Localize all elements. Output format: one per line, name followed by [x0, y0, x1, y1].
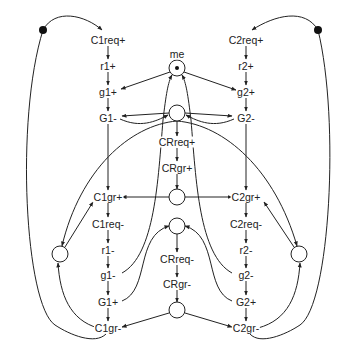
transition-crgr-minus: CRgr- [162, 279, 192, 290]
transition-crgr-plus: CRgr+ [161, 163, 194, 174]
place-mutex-release [169, 105, 185, 121]
transition-r2-plus: r2+ [237, 61, 254, 72]
transition-crreq-minus: CRreq- [159, 254, 195, 265]
token-me [175, 66, 179, 70]
transition-g1-minus: g1- [99, 270, 116, 281]
transition-r1-minus: r1- [101, 245, 116, 256]
transition-r2-minus: r2- [239, 245, 254, 256]
transition-G2-plus: G2+ [235, 297, 257, 308]
transition-G1-minus: G1- [98, 113, 118, 124]
transition-c2req-plus: C2req+ [228, 35, 265, 46]
place-left [52, 246, 68, 262]
token-top-right [314, 26, 322, 34]
transition-c2gr-plus: C2gr+ [231, 192, 262, 203]
place-cr-release [169, 218, 185, 234]
place-cr-grant [169, 189, 185, 205]
transition-c1gr-minus: C1gr- [94, 323, 122, 334]
transition-r1-plus: r1+ [99, 61, 116, 72]
transition-g1-plus: g1+ [98, 87, 118, 98]
transition-c1req-plus: C1req+ [90, 35, 127, 46]
token-top-left [39, 26, 47, 34]
transition-c2req-minus: C2req- [229, 219, 263, 230]
transition-crreq-plus: CRreq+ [158, 137, 196, 148]
transition-G2-minus: G2- [236, 113, 256, 124]
place-me-label: me [169, 49, 186, 60]
place-cr-done [169, 302, 185, 318]
transition-g2-minus: g2- [237, 270, 254, 281]
transition-c2gr-minus: C2gr- [232, 323, 260, 334]
place-right [291, 246, 307, 262]
transition-g2-plus: g2+ [236, 87, 256, 98]
transition-c1gr-plus: C1gr+ [93, 192, 124, 203]
transition-c1req-minus: C1req- [91, 219, 125, 230]
transition-G1-plus: G1+ [97, 297, 119, 308]
